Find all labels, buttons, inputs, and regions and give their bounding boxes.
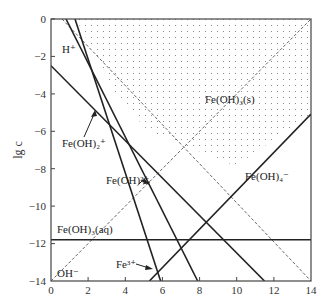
fe-oh3-solid-label: Fe(OH)₃(s) <box>205 93 255 106</box>
svg-text:−12: −12 <box>29 237 46 249</box>
fe-oh4-minus-label: Fe(OH)₄⁻ <box>245 170 289 183</box>
svg-text:2: 2 <box>85 284 91 296</box>
fe-oh3-solid-region <box>76 19 311 166</box>
oh-minus-label: OH⁻ <box>57 267 79 279</box>
svg-text:12: 12 <box>268 284 279 296</box>
fe3-label: Fe³⁺ <box>116 258 136 270</box>
svg-text:8: 8 <box>197 284 203 296</box>
svg-text:−8: −8 <box>34 163 46 175</box>
svg-text:10: 10 <box>231 284 243 296</box>
svg-text:−14: −14 <box>29 275 47 287</box>
log-concentration-ph-diagram: 0 −2 −4 −6 −8 −10 −12 −14 0 2 4 6 8 10 1… <box>0 0 325 297</box>
svg-text:0: 0 <box>41 13 47 25</box>
x-tick-labels: 0 2 4 6 8 10 12 14 <box>48 284 317 296</box>
fe-oh3-aq-label: Fe(OH)₃(aq) <box>57 223 113 236</box>
y-axis-title: lg c <box>11 141 25 159</box>
svg-text:−10: −10 <box>29 200 47 212</box>
fe-oh2-plus-label: Fe(OH)₂⁺ <box>62 137 106 150</box>
svg-text:6: 6 <box>160 284 166 296</box>
svg-text:4: 4 <box>123 284 129 296</box>
y-tick-labels: 0 −2 −4 −6 −8 −10 −12 −14 <box>29 13 47 287</box>
h-plus-label: H⁺ <box>62 43 76 55</box>
svg-text:−2: −2 <box>34 50 46 62</box>
svg-text:−4: −4 <box>34 88 46 100</box>
svg-text:−6: −6 <box>34 125 46 137</box>
arrowhead-icon <box>145 265 153 270</box>
svg-text:14: 14 <box>306 284 318 296</box>
svg-text:0: 0 <box>48 284 54 296</box>
